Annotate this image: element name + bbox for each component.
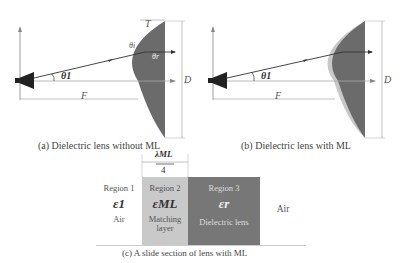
label-theta-i: θi [129,41,135,50]
region-3-desc: Dielectric lens [188,218,260,227]
region-3-name: Region 3 [188,183,260,193]
label-theta-r: θr [152,52,159,61]
region-2-epsilon: εML [142,196,188,212]
region-4: Air [260,177,306,245]
region-3-epsilon: εr [188,196,260,212]
region-2-desc: Matching layer [142,215,188,233]
label-F-b: F [275,90,281,101]
region-2-name: Region 2 [142,183,188,193]
label-T: T [145,18,151,29]
region-1-epsilon: ε1 [96,196,142,212]
region-1-desc: Air [96,215,142,224]
label-F: F [81,90,87,101]
quarter-wave-dimension [140,150,210,178]
lambda-ml-label: λML [155,149,173,159]
section-bottom-line [96,245,306,246]
region-4-desc: Air [260,205,306,214]
region-3: Region 3 εr Dielectric lens [188,177,260,245]
label-D: D [184,74,191,85]
region-1: Region 1 ε1 Air [96,177,142,245]
caption-c: (c) A slide section of lens with ML [122,248,247,258]
label-theta-1-b: θ1 [261,70,271,81]
caption-b: (b) Dielectric lens with ML [241,140,351,151]
quarter-denominator: 4 [161,165,166,175]
region-1-name: Region 1 [96,183,142,193]
label-theta-1: θ1 [61,70,71,81]
figure-a-lens-without-ml [0,0,200,140]
figure-b-lens-with-ml [200,0,402,140]
region-2: Region 2 εML Matching layer [142,177,188,245]
label-D-b: D [384,74,391,85]
